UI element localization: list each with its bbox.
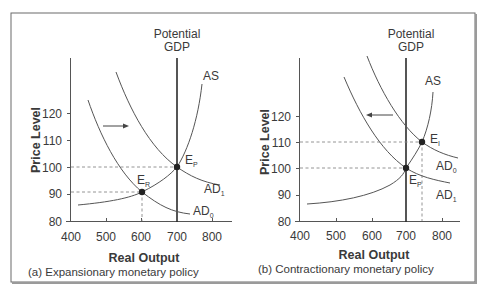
- x-tick-label: 400: [61, 230, 81, 244]
- x-tick-label: 500: [326, 229, 346, 243]
- y-tick-label: 120: [42, 107, 62, 121]
- potential-gdp-label: GDP: [398, 40, 424, 54]
- equilibrium-point-ep: [174, 164, 180, 170]
- equilibrium-point-er: [139, 189, 145, 195]
- x-tick-label: 600: [362, 229, 382, 243]
- x-tick-label: 400: [290, 229, 310, 243]
- as-label: AS: [203, 69, 219, 83]
- potential-gdp-label: Potential: [388, 27, 435, 41]
- y-tick-label: 90: [49, 187, 63, 201]
- y-tick-label: 110: [272, 136, 291, 150]
- y-tick-label: 90: [278, 188, 292, 202]
- x-tick-label: 600: [131, 230, 151, 244]
- y-tick-label: 100: [271, 162, 291, 176]
- y-axis-title: Price Level: [258, 109, 272, 175]
- x-tick-label: 700: [167, 230, 187, 244]
- y-tick-label: 120: [271, 110, 291, 124]
- x-tick-label: 800: [432, 229, 452, 243]
- x-tick-label: 500: [96, 230, 116, 244]
- equilibrium-point-ep: [403, 165, 409, 171]
- x-tick-label: 700: [396, 229, 416, 243]
- panel-caption: (b) Contractionary monetary policy: [258, 263, 434, 275]
- equilibrium-point-ei: [419, 139, 425, 145]
- potential-gdp-label: Potential: [154, 27, 201, 41]
- x-tick-label: 800: [202, 230, 222, 244]
- figure: 120 110 100 90 80 400 500 600 700 800 Pr…: [0, 0, 487, 299]
- y-tick-label: 110: [43, 134, 62, 148]
- y-tick-label: 80: [278, 215, 292, 229]
- x-axis-title: Real Output: [109, 251, 181, 265]
- as-label: AS: [425, 74, 441, 88]
- y-tick-label: 100: [42, 161, 62, 175]
- panel-caption: (a) Expansionary monetary policy: [28, 266, 199, 278]
- potential-gdp-label: GDP: [164, 40, 190, 54]
- y-tick-label: 80: [49, 215, 63, 229]
- y-axis-title: Price Level: [29, 107, 43, 173]
- x-axis-title: Real Output: [339, 248, 411, 262]
